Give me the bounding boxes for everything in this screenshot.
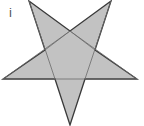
star-icon bbox=[0, 0, 144, 126]
star-figure: i bbox=[0, 0, 144, 126]
